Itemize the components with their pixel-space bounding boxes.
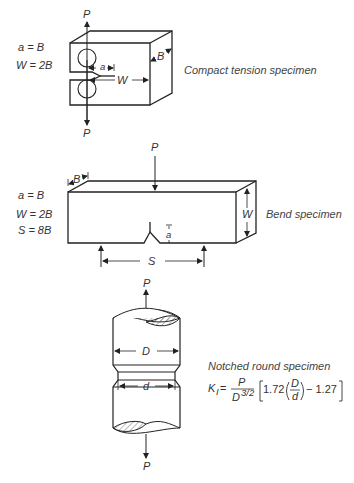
bend-beam <box>68 181 256 243</box>
bend-eq-a: a = B <box>18 189 44 201</box>
formula-minus-const: − 1.27 <box>306 383 337 395</box>
compact-tension-specimen: a = B W = 2B P P a W B Compact tensi <box>16 8 317 139</box>
formula-frac-den: d <box>292 390 299 402</box>
ct-eq-a: a = B <box>18 41 44 53</box>
specimen-diagram: a = B W = 2B P P a W B Compact tensi <box>0 0 354 483</box>
ct-eq-w: W = 2B <box>16 59 52 71</box>
formula-k-sub: I <box>216 386 219 397</box>
formula-k: K <box>208 382 216 394</box>
formula-coef: 1.72 <box>263 383 284 395</box>
stress-intensity-formula: K I = P D 3/2 1.72 D d − 1.27 <box>208 376 342 403</box>
bend-load-label: P <box>151 141 159 153</box>
formula-eq: = <box>220 382 226 394</box>
round-load-bottom-label: P <box>143 460 151 472</box>
bend-dim-w: W <box>242 208 254 220</box>
notched-round-specimen: P P D d Notched round specimen <box>113 277 342 472</box>
round-load-top-label: P <box>143 277 151 289</box>
round-dim-D: D <box>142 345 150 357</box>
bend-eq-s: S = 8B <box>18 224 51 236</box>
bend-specimen: a = B W = 2B S = 8B P B W Bend specimen … <box>16 141 342 267</box>
round-title: Notched round specimen <box>208 360 330 372</box>
ct-dim-w: W <box>117 74 129 86</box>
round-dim-d: d <box>143 380 150 392</box>
ct-load-top-label: P <box>83 8 91 20</box>
ct-title: Compact tension specimen <box>184 64 317 76</box>
round-body <box>113 318 180 428</box>
round-bottom-section <box>113 421 146 431</box>
formula-frac-num: D <box>291 377 299 389</box>
ct-block <box>70 31 172 105</box>
ct-dim-b: B <box>157 50 164 62</box>
formula-den-exp: 3/2 <box>241 387 255 398</box>
bend-dim-b: B <box>73 173 80 185</box>
bend-dim-a: a <box>166 229 171 240</box>
ct-dim-a: a <box>100 61 105 72</box>
ct-load-bottom-label: P <box>83 127 91 139</box>
bend-dim-s: S <box>148 255 156 267</box>
formula-den: D <box>232 391 240 403</box>
bend-eq-w: W = 2B <box>16 208 52 220</box>
bend-title: Bend specimen <box>266 208 342 220</box>
